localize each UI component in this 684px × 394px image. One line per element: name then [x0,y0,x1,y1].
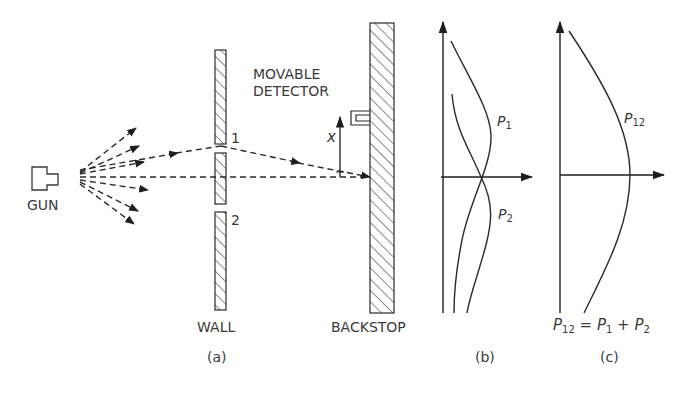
p1-subscript: 1 [505,120,511,131]
hole-2-label: 2 [231,213,240,227]
p1-label: P1 [497,114,512,131]
caption-b: (b) [475,350,495,364]
backstop-label: BACKSTOP [331,320,406,334]
detector-icon [351,111,370,125]
eq-plus: + [612,316,634,334]
wall [215,50,226,310]
p12-label: P12 [624,111,645,128]
caption-c: (c) [600,350,619,364]
eq-equals: = [575,316,597,334]
backstop [370,23,394,313]
gun-icon [32,167,58,190]
eq-term2-sub: 2 [643,324,649,335]
p12-subscript: 12 [632,117,645,128]
eq-lhs-sub: 12 [562,324,575,335]
detector-label-line1: MOVABLE [253,67,329,81]
plot-b-curve-p2 [452,94,491,313]
position-x-arrow [336,117,344,177]
gun-label: GUN [27,198,59,212]
plot-c-curve-p12 [569,31,630,313]
sum-equation: P12 = P1 + P2 [553,318,650,335]
eq-lhs: P [553,316,562,334]
plot-c-axes [560,22,664,313]
position-x-label: x [327,130,336,145]
detector-label-line2: DETECTOR [253,84,329,98]
double-slit-bullet-diagram: MOVABLE DETECTOR GUN 1 2 x WALL BACKSTOP… [0,0,684,394]
wall-label: WALL [197,320,235,334]
plot-b-axes [441,22,532,313]
p2-subscript: 2 [506,213,512,224]
detector-label: MOVABLE DETECTOR [253,67,329,98]
caption-a: (a) [207,350,227,364]
p2-label: P2 [498,207,513,224]
eq-term1: P [597,316,606,334]
hole-1-label: 1 [231,131,240,145]
